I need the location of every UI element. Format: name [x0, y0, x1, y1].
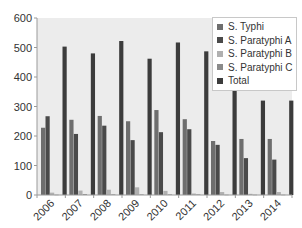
- bar: [119, 41, 123, 195]
- legend-label: S. Paratyphi C: [228, 62, 292, 73]
- bar: [216, 145, 220, 195]
- y-tick-label: 300: [14, 101, 32, 113]
- legend-swatch-icon: [217, 51, 223, 57]
- bar: [78, 191, 82, 195]
- bar: [46, 116, 50, 195]
- bar: [98, 116, 102, 195]
- bar: [204, 51, 208, 195]
- bar: [211, 141, 215, 195]
- bar: [159, 132, 163, 195]
- y-tick-label: 500: [14, 42, 32, 54]
- y-tick-label: 400: [14, 71, 32, 83]
- bar: [131, 140, 135, 195]
- legend-swatch-icon: [217, 24, 223, 30]
- bar: [187, 129, 191, 195]
- x-tick-label: 2013: [229, 197, 255, 223]
- legend-item-total: Total: [217, 74, 293, 88]
- y-axis: 0100200300400500600: [14, 12, 37, 201]
- bar: [163, 191, 167, 195]
- x-tick-label: 2014: [257, 197, 283, 223]
- legend: S. Typhi S. Paratyphi A S. Paratyphi B S…: [212, 17, 297, 91]
- bar: [135, 187, 139, 195]
- bar: [63, 47, 67, 195]
- bar: [91, 53, 95, 195]
- legend-swatch-icon: [217, 78, 223, 84]
- x-tick-label: 2006: [31, 197, 57, 223]
- bar: [107, 190, 111, 195]
- legend-item-s-typhi: S. Typhi: [217, 20, 293, 34]
- bar: [148, 59, 152, 195]
- bar: [289, 101, 293, 195]
- bar: [183, 119, 187, 195]
- legend-item-s-paratyphi-c: S. Paratyphi C: [217, 61, 293, 75]
- legend-item-s-paratyphi-b: S. Paratyphi B: [217, 47, 293, 61]
- legend-label: Total: [228, 75, 249, 86]
- y-tick-label: 0: [26, 189, 32, 201]
- bar: [154, 110, 158, 195]
- bar: [102, 126, 106, 195]
- x-tick-label: 2011: [173, 197, 198, 222]
- bar: [239, 139, 243, 195]
- bar: [176, 42, 180, 195]
- x-tick-label: 2009: [116, 197, 142, 223]
- bar: [74, 134, 78, 195]
- bar: [261, 101, 265, 195]
- x-tick-label: 2010: [144, 197, 170, 223]
- bar: [126, 121, 130, 195]
- y-tick-label: 200: [14, 130, 32, 142]
- y-tick-label: 100: [14, 160, 32, 172]
- bar: [244, 158, 248, 195]
- legend-label: S. Paratyphi B: [228, 48, 292, 59]
- x-tick-label: 2012: [201, 197, 227, 223]
- legend-label: S. Typhi: [228, 21, 264, 32]
- legend-swatch-icon: [217, 64, 223, 70]
- bar: [41, 128, 45, 195]
- legend-item-s-paratyphi-a: S. Paratyphi A: [217, 34, 293, 48]
- bar: [233, 88, 237, 195]
- y-tick-label: 600: [14, 12, 32, 24]
- x-axis: 200620072008200920102011201220132014: [31, 195, 292, 223]
- x-tick-label: 2007: [59, 197, 85, 223]
- bar: [268, 139, 272, 195]
- legend-label: S. Paratyphi A: [228, 35, 291, 46]
- bar: [272, 160, 276, 195]
- bar: [69, 120, 73, 195]
- legend-swatch-icon: [217, 37, 223, 43]
- x-tick-label: 2008: [87, 197, 113, 223]
